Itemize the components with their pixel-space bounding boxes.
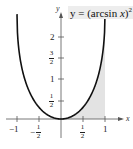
minus-sign: − bbox=[30, 129, 35, 136]
frac-num: 1 bbox=[50, 93, 54, 100]
x-tick-label-half: 1 2 bbox=[80, 124, 85, 140]
y-tick-label-3-half: 3 2 bbox=[49, 50, 54, 66]
y-tick-label-1: 1 bbox=[50, 75, 55, 84]
y-tick-label-2: 2 bbox=[50, 33, 55, 42]
x-axis-arrow-icon bbox=[118, 117, 124, 121]
y-axis-label: y bbox=[56, 4, 60, 13]
x-axis-label: x bbox=[126, 114, 130, 123]
frac-den: 2 bbox=[50, 102, 54, 109]
chart-canvas bbox=[0, 0, 133, 149]
frac-den: 2 bbox=[50, 59, 54, 66]
title-prefix: y = (arcsin bbox=[70, 7, 120, 19]
title-exponent: 2 bbox=[128, 6, 132, 14]
frac-den: 2 bbox=[37, 133, 41, 140]
frac-num: 3 bbox=[50, 50, 54, 57]
function-label: y = (arcsin x)2 bbox=[68, 6, 133, 19]
frac-den: 2 bbox=[81, 133, 85, 140]
y-tick-label-half: 1 2 bbox=[49, 93, 54, 109]
shaded-region bbox=[61, 14, 105, 119]
x-tick-label-neg-half: − 1 2 bbox=[30, 124, 41, 140]
frac-num: 1 bbox=[81, 124, 85, 131]
x-tick-label-neg1: −1 bbox=[9, 125, 19, 134]
x-tick-label-1: 1 bbox=[103, 125, 108, 134]
frac-num: 1 bbox=[37, 124, 41, 131]
